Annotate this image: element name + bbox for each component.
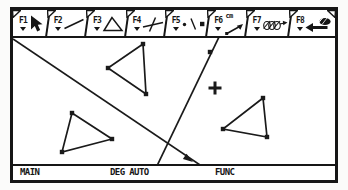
geometry-triangle[interactable] [108,44,146,94]
tab-label: F5 [172,17,180,25]
tab-notch-icon [289,10,298,18]
geometry-line[interactable] [13,39,209,164]
status-bar: MAIN DEG AUTO FUNC [13,164,335,180]
segment-icon [62,16,86,32]
perpendicular-icon [141,16,165,33]
geometry-triangle[interactable] [62,113,112,152]
toolbar: F1 F2 F3 [13,10,335,38]
tab-key-group: F1 [19,17,27,31]
geometry-point[interactable] [106,66,110,70]
toolbar-tab-f4[interactable]: F4 [127,10,166,36]
geometry-point[interactable] [208,50,212,54]
dropdown-arrow-icon [173,27,179,31]
tab-notch-icon [86,10,95,18]
toolbar-tab-f7[interactable]: F7 [247,10,290,36]
tab-label: F4 [133,17,141,25]
geometry-point[interactable] [110,137,114,141]
pointer-icon [27,15,47,33]
calculator-screen: F1 F2 F3 [10,7,338,183]
tab-key-group: F4 [133,17,141,31]
geometry-triangle[interactable] [223,98,267,137]
status-angle-mode: DEG AUTO [110,167,149,177]
unit-label: cm [225,12,232,20]
tab-notch-icon [126,10,135,18]
geometry-point[interactable] [70,111,74,115]
toolbar-tab-f6[interactable]: F6 cm [208,10,246,36]
triangle-icon [101,16,126,33]
crosshair-cursor[interactable] [209,82,222,95]
dropdown-arrow-icon [297,27,303,31]
tab-key-group: F6 [214,17,222,31]
file-tools-icon [304,17,334,32]
tab-notch-icon [207,10,216,18]
geometry-point[interactable] [141,42,145,46]
tab-notch-icon [165,10,174,18]
dropdown-arrow-icon [94,27,100,31]
drawing-area[interactable] [13,38,335,164]
geometry-point[interactable] [60,150,64,154]
tab-notch-icon [12,10,21,18]
status-folder: MAIN [20,167,39,177]
tab-key-group: F5 [172,17,180,31]
dropdown-arrow-icon [254,27,260,31]
dropdown-arrow-icon [20,27,26,31]
geometry-point[interactable] [265,135,269,139]
geometry-point[interactable] [221,127,225,131]
animation-icon [261,17,289,32]
point-tools-icon [180,16,208,32]
dropdown-arrow-icon [55,27,61,31]
dropdown-arrow-icon [134,27,140,31]
tab-key-group: F8 [296,17,304,31]
tab-label: F8 [296,17,304,25]
tab-key-group: F3 [93,17,101,31]
tab-label: F6 [214,17,222,25]
status-graph-mode: FUNC [215,167,234,177]
toolbar-tab-f2[interactable]: F2 [48,10,87,36]
tab-label: F7 [253,17,261,25]
toolbar-tab-f5[interactable]: F5 [166,10,209,36]
tab-key-group: F7 [253,17,261,31]
tab-key-group: F2 [54,17,62,31]
geometry-line[interactable] [155,38,219,164]
toolbar-tab-f3[interactable]: F3 [87,10,127,36]
toolbar-corner-notch-icon [327,10,336,18]
geometry-point[interactable] [261,96,265,100]
page: { "toolbar": { "tabs": [ {"label": "F1",… [0,0,348,190]
dropdown-arrow-icon [215,27,221,31]
tab-notch-icon [47,10,56,18]
measure-icon: cm [222,13,245,36]
tab-label: F3 [93,17,101,25]
geometry-canvas[interactable] [13,38,335,164]
tab-label: F1 [19,17,27,25]
tab-notch-icon [246,10,255,18]
toolbar-tab-f1[interactable]: F1 [13,10,48,36]
tab-label: F2 [54,17,62,25]
geometry-point[interactable] [144,92,148,96]
